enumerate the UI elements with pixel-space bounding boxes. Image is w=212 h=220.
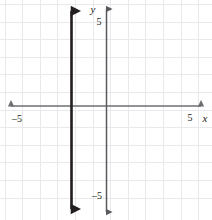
coordinate-plane-figure: y x 5 –5 –5 5 [0,0,212,220]
y-axis-tick-label-5: 5 [97,16,102,27]
x-axis-tick-label-negative-5: –5 [11,113,22,124]
y-axis-label: y [90,3,96,15]
graph-canvas: y x 5 –5 –5 5 [0,0,212,220]
x-axis-tick-label-5: 5 [188,112,193,123]
x-axis-label: x [202,112,208,124]
y-axis-tick-label-negative-5: –5 [91,190,102,201]
